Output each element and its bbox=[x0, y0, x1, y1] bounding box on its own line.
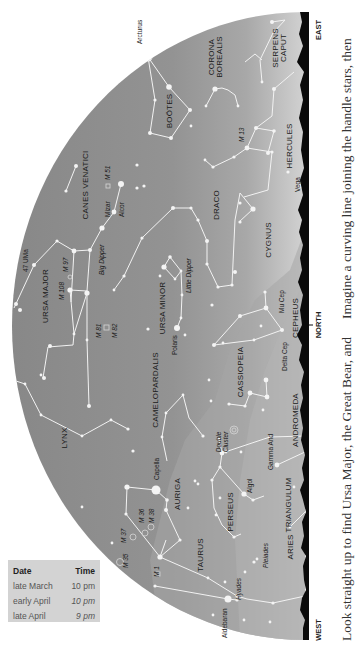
direction-east: EAST bbox=[314, 20, 323, 40]
label-m82: M 82 bbox=[111, 323, 118, 338]
label-capella: Capella bbox=[153, 458, 161, 480]
label-alcor: Alcor bbox=[118, 201, 125, 217]
viewing-times-table: Date Time late March 10 pm early April 1… bbox=[8, 560, 100, 622]
label-pleiades: Pleiades bbox=[262, 542, 269, 568]
label-m36: M 36 bbox=[138, 508, 145, 523]
label-m81: M 81 bbox=[95, 323, 102, 338]
label-lynx: LYNX bbox=[60, 427, 69, 449]
label-m13: M 13 bbox=[238, 127, 245, 142]
label-vega: Vega bbox=[294, 177, 302, 192]
label-mizar: Mizar bbox=[104, 200, 111, 217]
label-cepheus: CEPHEUS bbox=[291, 298, 300, 338]
row-time: 9 pm bbox=[76, 609, 95, 624]
table-row: late March 10 pm bbox=[8, 579, 100, 594]
label-cassiopeia: CASSIOPEIA bbox=[236, 346, 245, 397]
label-hercules: HERCULES bbox=[285, 123, 294, 168]
label-m97: M 97 bbox=[62, 257, 69, 272]
label-hyades: Hyades bbox=[235, 577, 243, 600]
label-cluster: Cluster bbox=[222, 431, 229, 452]
star-chart: EAST NORTH WEST SERPENS CAPUT CORONA BOR… bbox=[0, 0, 358, 648]
body-text-line-1: Look straight up to find Ursa Major, the… bbox=[339, 337, 354, 641]
label-canes-venatici: CANES VENATICI bbox=[81, 151, 90, 220]
label-draco: DRACO bbox=[212, 190, 221, 220]
label-cygnus: CYGNUS bbox=[264, 222, 273, 257]
table-header: Date Time bbox=[8, 564, 100, 579]
row-date: late April bbox=[13, 609, 46, 624]
label-caput: CAPUT bbox=[279, 34, 288, 62]
label-arcturus: Arcturus bbox=[136, 19, 143, 44]
header-date: Date bbox=[13, 564, 31, 579]
label-aries: ARIES bbox=[286, 534, 295, 559]
label-triangulum: TRIANGULUM bbox=[284, 477, 293, 532]
label-aldebaran: Aldebaran bbox=[221, 608, 228, 638]
label-polaris: Polaris bbox=[171, 334, 178, 355]
label-m108: M 108 bbox=[58, 282, 65, 300]
label-algol: Algol bbox=[246, 478, 254, 493]
label-delta-cep: Delta Cep bbox=[281, 342, 289, 371]
label-ursa-minor: URSA MINOR bbox=[158, 282, 167, 335]
label-little-dipper: Little Dipper bbox=[185, 257, 193, 293]
label-m51: M 51 bbox=[104, 165, 111, 180]
row-date: late March bbox=[13, 579, 53, 594]
label-m1: M 1 bbox=[153, 566, 160, 577]
row-time: 10 pm bbox=[71, 594, 95, 609]
direction-north: NORTH bbox=[314, 312, 323, 339]
label-m38: M 38 bbox=[148, 508, 155, 523]
label-camelopardalis: CAMELOPARDALIS bbox=[151, 352, 160, 428]
row-time: 10 pm bbox=[71, 579, 95, 594]
label-ursa-major: URSA MAJOR bbox=[41, 269, 50, 323]
row-date: early April bbox=[13, 594, 50, 609]
table-row: early April 10 pm bbox=[8, 594, 100, 609]
label-m35: M 35 bbox=[122, 553, 129, 568]
label-m37: M 37 bbox=[120, 528, 127, 543]
label-bootes: BOÖTES bbox=[165, 94, 174, 129]
direction-west: WEST bbox=[314, 619, 323, 641]
label-taurus: TAURUS bbox=[196, 538, 205, 572]
label-perseus: PERSEUS bbox=[226, 492, 235, 532]
label-andromeda: ANDROMEDA bbox=[291, 393, 300, 447]
label-big-dipper: Big Dipper bbox=[98, 244, 106, 275]
label-auriga: AURIGA bbox=[173, 478, 182, 510]
header-time: Time bbox=[75, 564, 95, 579]
table-row: late April 9 pm bbox=[8, 609, 100, 624]
label-gamma-and: Gamma And bbox=[267, 433, 274, 470]
label-double: Double bbox=[215, 431, 222, 452]
label-borealis: BOREALIS bbox=[215, 36, 224, 78]
label-mu-cep: Mu Cep bbox=[278, 290, 286, 313]
body-text-line-2: Imagine a curving line joining the handl… bbox=[339, 38, 354, 319]
label-47uma: 47 UMa bbox=[22, 249, 29, 272]
